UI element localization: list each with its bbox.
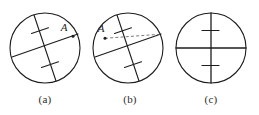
panel-b-point-A-label: A [97,22,105,34]
panel-b-group: A [93,13,163,83]
panel-c-caption: (c) [191,93,231,105]
panel-a-caption: (a) [25,93,65,105]
panel-a-point-A-label: A [60,21,68,33]
panel-b-dashed-construction-line [105,34,161,38]
panel-b-point-A-dot [104,37,107,40]
panel-a-point-A-dot [72,35,75,38]
panel-a-chord-through-A [12,34,78,57]
panel-a-group: A [10,13,80,83]
figure-container: A A [0,0,259,115]
panel-b-caption: (b) [110,93,150,105]
panel-c-group [176,13,246,83]
